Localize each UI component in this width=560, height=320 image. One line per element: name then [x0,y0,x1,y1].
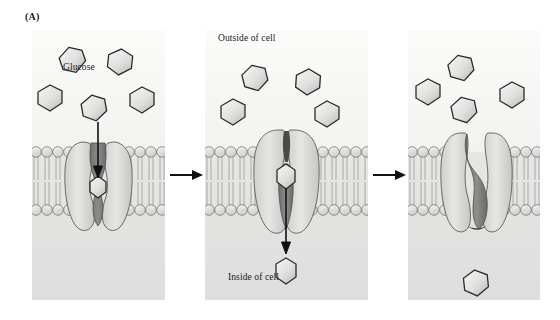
right-arrow-icon [170,168,203,182]
caption-outside-of-cell: Outside of cell [218,33,275,43]
panel-3-inward-open-reset [408,30,540,300]
right-arrow-icon [373,168,406,182]
arrow-panel1-to-panel2 [170,168,203,182]
caption-inside-of-cell: Inside of cell [228,272,279,282]
panel-2-graphic [205,30,368,300]
panel-3-graphic [408,30,540,300]
arrow-panel2-to-panel3 [373,168,406,182]
panel-2-occluded-release [205,30,368,300]
figure-glucose-transport: (A) [0,0,560,320]
panel-1-graphic [32,30,165,300]
caption-glucose: Glucose [63,62,95,72]
panel-1-glucose-binding [32,30,165,300]
panel-label-a: (A) [25,11,39,22]
